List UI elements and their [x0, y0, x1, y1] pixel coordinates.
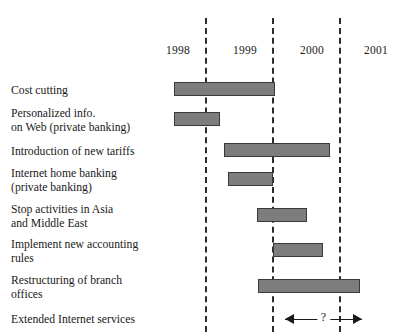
task-label-line1: Cost cutting	[11, 84, 176, 98]
axis-year-1999: 1999	[225, 44, 265, 56]
task-label-line2: (private banking)	[11, 181, 176, 195]
gridline-1999	[205, 18, 207, 332]
arrow-right-icon	[353, 314, 362, 324]
task-label: Stop activities in Asia and Middle East	[11, 203, 176, 230]
arrow-left-icon	[285, 314, 294, 324]
task-label-line1: Introduction of new tariffs	[11, 145, 176, 159]
axis-year-2001: 2001	[356, 44, 396, 56]
task-bar	[174, 112, 220, 126]
task-label-line1: Internet home banking	[11, 167, 176, 181]
task-label: Internet home banking (private banking)	[11, 167, 176, 194]
task-bar	[257, 208, 307, 222]
unknown-duration-arrow: ?	[285, 314, 362, 326]
task-label: Restructuring of branch offices	[11, 274, 176, 301]
task-label: Introduction of new tariffs	[11, 145, 176, 159]
task-label-line1: Extended Internet services	[11, 313, 176, 327]
task-label: Extended Internet services	[11, 313, 176, 327]
task-label-line1: Personalized info.	[11, 107, 176, 121]
task-label: Cost cutting	[11, 84, 176, 98]
task-bar	[224, 143, 330, 157]
question-mark-annotation: ?	[317, 310, 330, 324]
task-label: Implement new accounting rules	[11, 238, 176, 265]
axis-year-2000: 2000	[292, 44, 332, 56]
gantt-chart: 1998 1999 2000 2001 Cost cutting Persona…	[0, 0, 396, 336]
task-bar	[228, 172, 273, 186]
axis-year-1998: 1998	[158, 44, 198, 56]
task-label-line1: Stop activities in Asia	[11, 203, 176, 217]
task-bar	[258, 279, 360, 293]
task-label-line2: and Middle East	[11, 217, 176, 231]
task-bar	[174, 82, 275, 96]
task-bar	[273, 243, 323, 257]
task-label-line1: Implement new accounting	[11, 238, 176, 252]
task-label-line2: on Web (private banking)	[11, 121, 176, 135]
task-label-line2: offices	[11, 288, 176, 302]
task-label: Personalized info. on Web (private banki…	[11, 107, 176, 134]
task-label-line2: rules	[11, 252, 176, 266]
task-label-line1: Restructuring of branch	[11, 274, 176, 288]
